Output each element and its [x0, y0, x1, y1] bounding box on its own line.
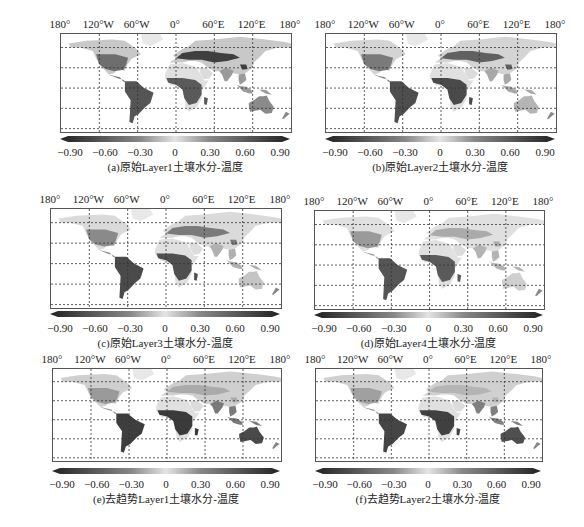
- longitude-label: 180°: [270, 193, 291, 205]
- colorbar-tick-label: 0.30: [453, 478, 472, 490]
- longitude-label: 180°: [545, 18, 566, 30]
- longitude-label: 60°W: [124, 18, 150, 30]
- colorbar-tick-label: −0.30: [381, 322, 406, 334]
- longitude-label: 60°E: [192, 193, 214, 205]
- colorbar-tick-label: −0.90: [49, 478, 74, 490]
- colorbar-tick-label: −0.60: [82, 322, 107, 334]
- colorbar-tick-label: 0.90: [535, 146, 554, 158]
- longitude-label: 60°W: [377, 353, 403, 365]
- longitude-label: 180°: [42, 353, 63, 365]
- longitude-label: 120°W: [337, 195, 368, 207]
- colorbar-tick-label: −0.60: [357, 146, 382, 158]
- colorbar: [314, 312, 543, 318]
- panel-caption: (d)原始Layer4土壤水分-温度: [361, 334, 497, 350]
- longitude-label: 0°: [423, 353, 433, 365]
- longitude-label: 60°W: [115, 353, 141, 365]
- longitude-label: 0°: [435, 18, 445, 30]
- colorbar-tick-label: 0: [425, 478, 431, 490]
- world-map: [325, 33, 557, 133]
- panel-caption: (a)原始Layer1土壤水分-温度: [107, 158, 242, 174]
- colorbar-tick-label: 0: [163, 478, 169, 490]
- colorbar-tick-label: −0.30: [392, 146, 417, 158]
- longitude-label: 120°W: [74, 353, 105, 365]
- world-map: [60, 33, 292, 133]
- longitude-label: 180°: [531, 353, 552, 365]
- colorbar-tick-label: −0.90: [311, 322, 336, 334]
- longitude-label: 0°: [424, 195, 434, 207]
- longitude-label: 60°W: [114, 193, 140, 205]
- longitude-label: 120°W: [337, 353, 368, 365]
- longitude-label: 120°W: [73, 193, 104, 205]
- longitude-label: 120°E: [503, 18, 531, 30]
- longitude-label: 0°: [170, 18, 180, 30]
- colorbar-tick-label: −0.90: [47, 322, 72, 334]
- colorbar-tick-label: 0.30: [190, 322, 209, 334]
- colorbar-tick-label: 0.60: [225, 322, 244, 334]
- colorbar-tick-label: −0.90: [322, 146, 347, 158]
- longitude-label: 120°W: [83, 18, 114, 30]
- colorbar-tick-label: 0: [172, 146, 178, 158]
- colorbar-tick-label: 0.30: [200, 146, 219, 158]
- colorbar-tick-label: 0.60: [235, 146, 254, 158]
- longitude-label: 180°: [315, 18, 336, 30]
- colorbar-tick-label: 0.90: [521, 478, 540, 490]
- colorbar-tick-label: −0.90: [312, 478, 337, 490]
- longitude-label: 120°W: [348, 18, 379, 30]
- longitude-label: 180°: [40, 193, 61, 205]
- colorbar-tick-label: 0.60: [487, 478, 506, 490]
- colorbar-tick-label: −0.60: [347, 478, 372, 490]
- colorbar-tick-label: −0.60: [84, 478, 109, 490]
- colorbar: [315, 468, 541, 474]
- longitude-label: 180°: [305, 353, 326, 365]
- longitude-label: 180°: [280, 18, 301, 30]
- colorbar-tick-label: 0.60: [500, 146, 519, 158]
- colorbar: [60, 136, 290, 142]
- colorbar: [52, 468, 280, 474]
- longitude-label: 120°E: [490, 353, 518, 365]
- longitude-label: 60°E: [202, 18, 224, 30]
- longitude-label: 120°E: [491, 195, 519, 207]
- longitude-label: 0°: [161, 353, 171, 365]
- colorbar-tick-label: 0.90: [270, 146, 289, 158]
- longitude-label: 60°E: [193, 353, 215, 365]
- colorbar-tick-label: 0.90: [523, 322, 542, 334]
- colorbar: [325, 136, 555, 142]
- longitude-label: 60°W: [377, 195, 403, 207]
- panel-caption: (c)原始Layer3土壤水分-温度: [97, 334, 232, 350]
- colorbar-tick-label: 0: [426, 322, 432, 334]
- colorbar-tick-label: −0.30: [381, 478, 406, 490]
- world-map: [315, 368, 543, 462]
- world-map: [314, 210, 545, 310]
- longitude-label: 60°E: [455, 353, 477, 365]
- world-map: [50, 208, 282, 309]
- colorbar-tick-label: 0.90: [260, 322, 279, 334]
- longitude-label: 60°E: [467, 18, 489, 30]
- colorbar-tick-label: −0.30: [127, 146, 152, 158]
- colorbar-tick-label: −0.90: [57, 146, 82, 158]
- longitude-label: 60°E: [456, 195, 478, 207]
- colorbar-tick-label: −0.60: [92, 146, 117, 158]
- world-map: [52, 368, 282, 462]
- longitude-label: 120°E: [228, 353, 256, 365]
- longitude-label: 60°W: [389, 18, 415, 30]
- longitude-label: 180°: [50, 18, 71, 30]
- longitude-label: 180°: [270, 353, 291, 365]
- longitude-label: 0°: [160, 193, 170, 205]
- longitude-label: 180°: [533, 195, 554, 207]
- colorbar-tick-label: 0.60: [226, 478, 245, 490]
- colorbar-tick-label: 0.90: [260, 478, 279, 490]
- colorbar-tick-label: 0.30: [454, 322, 473, 334]
- longitude-label: 120°E: [238, 18, 266, 30]
- longitude-label: 120°E: [228, 193, 256, 205]
- colorbar-tick-label: −0.30: [117, 322, 142, 334]
- colorbar-tick-label: 0: [162, 322, 168, 334]
- colorbar: [50, 311, 280, 317]
- colorbar-tick-label: 0: [437, 146, 443, 158]
- colorbar-tick-label: −0.30: [119, 478, 144, 490]
- colorbar-tick-label: 0.30: [465, 146, 484, 158]
- panel-caption: (f)去趋势Layer2土壤水分-温度: [356, 490, 501, 506]
- colorbar-tick-label: 0.30: [191, 478, 210, 490]
- panel-caption: (b)原始Layer2土壤水分-温度: [372, 158, 508, 174]
- panel-caption: (e)去趋势Layer1土壤水分-温度: [93, 490, 239, 506]
- colorbar-tick-label: −0.60: [346, 322, 371, 334]
